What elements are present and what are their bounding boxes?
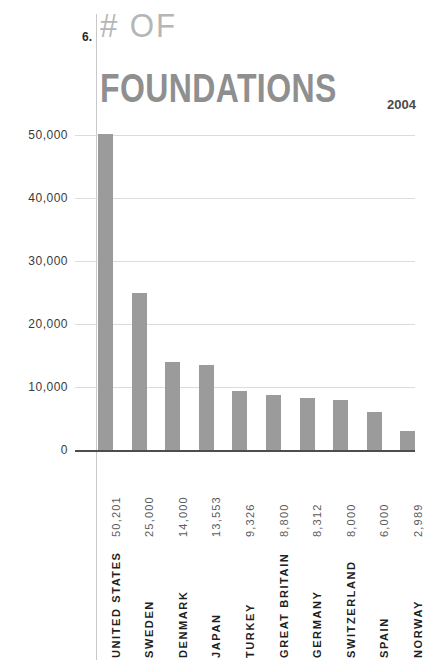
bar-value-label: 6,000	[379, 503, 390, 537]
category-label: GERMANY	[312, 591, 323, 658]
bar[interactable]	[199, 365, 214, 450]
gridline	[75, 324, 415, 325]
category-label: SPAIN	[379, 617, 390, 658]
gridline	[75, 387, 415, 388]
plot-area: 50,00040,00030,00020,00010,0000 50,20125…	[0, 0, 424, 666]
chart-page: 6. # OF FOUNDATIONS 2004 50,00040,00030,…	[0, 0, 424, 666]
bar-value-label: 8,800	[279, 503, 290, 537]
axis-baseline	[75, 450, 415, 452]
category-label: TURKEY	[245, 603, 256, 658]
category-label: UNITED STATES	[111, 551, 122, 658]
bar-value-label: 8,312	[312, 503, 323, 537]
bar-value-label: 2,989	[413, 503, 424, 537]
bar-value-label: 50,201	[111, 496, 122, 537]
y-tick-label: 40,000	[0, 192, 68, 204]
y-tick-label: 10,000	[0, 381, 68, 393]
category-label: SWEDEN	[144, 600, 155, 658]
gridline	[75, 261, 415, 262]
bar[interactable]	[98, 134, 113, 450]
bar[interactable]	[266, 395, 281, 450]
bar-value-label: 8,000	[346, 503, 357, 537]
y-tick-label: 0	[0, 444, 68, 456]
y-tick-label: 20,000	[0, 318, 68, 330]
bar[interactable]	[132, 293, 147, 450]
y-tick-label: 30,000	[0, 255, 68, 267]
gridline	[75, 135, 415, 136]
gridline	[75, 198, 415, 199]
bar[interactable]	[300, 398, 315, 450]
bar[interactable]	[232, 391, 247, 450]
category-label: NORWAY	[413, 600, 424, 658]
bar-value-label: 13,553	[211, 496, 222, 537]
category-label: GREAT BRITAIN	[279, 553, 290, 658]
y-tick-label: 50,000	[0, 129, 68, 141]
category-label: JAPAN	[211, 614, 222, 658]
bar[interactable]	[165, 362, 180, 450]
bar-value-label: 25,000	[144, 496, 155, 537]
bar[interactable]	[400, 431, 415, 450]
bar[interactable]	[333, 400, 348, 450]
bar-value-label: 9,326	[245, 503, 256, 537]
bar-value-label: 14,000	[178, 496, 189, 537]
category-label: SWITZERLAND	[346, 560, 357, 658]
category-label: DENMARK	[178, 591, 189, 658]
bar[interactable]	[367, 412, 382, 450]
